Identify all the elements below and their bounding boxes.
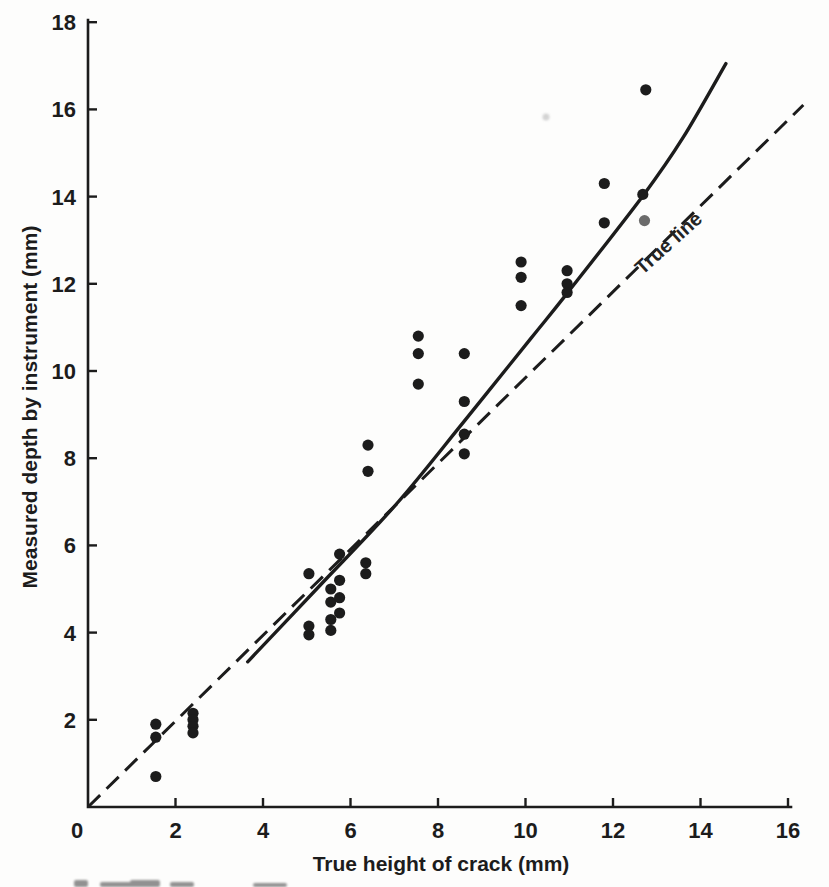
x-tick-label: 6 <box>344 818 356 843</box>
x-tick-label: 2 <box>169 818 181 843</box>
data-point <box>303 568 314 579</box>
scanned-figure-page: 024681012141624681012141618 True height … <box>0 0 829 887</box>
data-point <box>334 592 345 603</box>
data-point <box>334 549 345 560</box>
data-point <box>334 607 345 618</box>
data-point <box>459 348 470 359</box>
y-tick-label: 4 <box>64 621 77 646</box>
data-point <box>516 256 527 267</box>
data-point <box>334 575 345 586</box>
x-tick-label: 12 <box>601 818 625 843</box>
x-tick-label: 0 <box>71 818 83 843</box>
y-tick-label: 10 <box>52 359 76 384</box>
data-point <box>459 448 470 459</box>
scan-artifact-caption-fragment <box>74 880 287 887</box>
scan-artifact-speck <box>543 114 550 121</box>
y-tick-label: 2 <box>64 708 76 733</box>
y-tick-label: 14 <box>52 185 77 210</box>
data-point <box>599 217 610 228</box>
data-point <box>637 189 648 200</box>
y-tick-label: 18 <box>52 10 76 35</box>
data-point <box>362 440 373 451</box>
data-point <box>362 466 373 477</box>
x-tick-label: 8 <box>432 818 444 843</box>
data-point <box>150 771 161 782</box>
data-point <box>413 379 424 390</box>
data-point <box>413 331 424 342</box>
data-point <box>640 84 651 95</box>
data-point <box>325 583 336 594</box>
data-point <box>150 732 161 743</box>
data-point <box>303 629 314 640</box>
y-tick-label: 6 <box>64 533 76 558</box>
x-tick-label: 4 <box>257 818 270 843</box>
data-point <box>516 272 527 283</box>
data-point-faded <box>639 215 650 226</box>
y-tick-label: 16 <box>52 97 76 122</box>
data-point <box>562 287 573 298</box>
x-tick-label: 16 <box>776 818 800 843</box>
x-tick-label: 14 <box>688 818 713 843</box>
data-point <box>150 719 161 730</box>
fitted-curve <box>248 64 726 662</box>
y-tick-label: 8 <box>64 446 76 471</box>
data-point <box>599 178 610 189</box>
data-point <box>562 265 573 276</box>
data-point <box>187 727 198 738</box>
data-point <box>413 348 424 359</box>
y-tick-label: 12 <box>52 272 76 297</box>
plot-area: 024681012141624681012141618 <box>52 10 804 843</box>
data-point <box>516 300 527 311</box>
data-point <box>325 625 336 636</box>
data-point <box>459 396 470 407</box>
data-point <box>360 557 371 568</box>
axes <box>88 20 791 807</box>
scatter-chart: 024681012141624681012141618 True height … <box>0 0 829 887</box>
data-point <box>459 429 470 440</box>
x-tick-label: 10 <box>513 818 537 843</box>
x-axis-title: True height of crack (mm) <box>313 852 570 875</box>
true-line-dashed <box>88 105 803 807</box>
y-axis-title: Measured depth by instrument (mm) <box>18 226 41 589</box>
data-point <box>360 568 371 579</box>
